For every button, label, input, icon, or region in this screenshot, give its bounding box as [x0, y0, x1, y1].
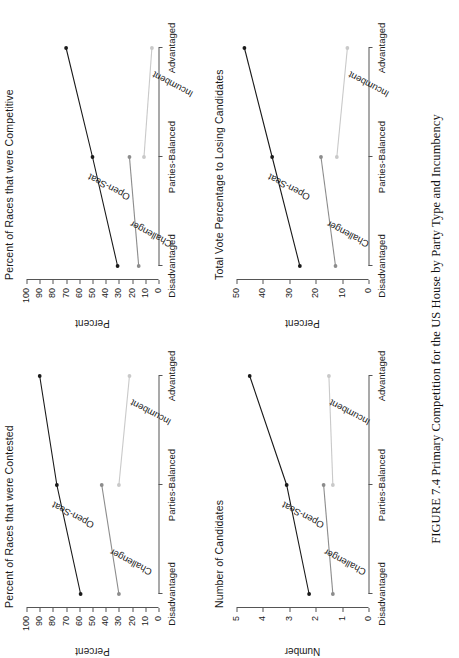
series-layer-number — [212, 336, 416, 652]
rotated-page-wrapper: Percent of Races that were Contested0102… — [0, 0, 459, 658]
series-line-incumbent — [143, 48, 151, 157]
panel-votepct: Total Vote Percentage to Losing Candidat… — [212, 8, 416, 324]
data-point-incumbent — [330, 483, 334, 487]
figure-page: Percent of Races that were Contested0102… — [0, 0, 459, 658]
data-point-challenger — [127, 155, 131, 159]
series-line-challenger — [323, 485, 332, 594]
data-point-incumbent — [334, 155, 338, 159]
data-point-challenger — [333, 264, 337, 268]
data-point-open-seat — [64, 46, 68, 50]
data-point-incumbent — [150, 46, 154, 50]
panel-number: Number of Candidates012345NumberDisadvan… — [212, 336, 416, 652]
data-point-challenger — [330, 592, 334, 596]
series-layer-contested — [2, 336, 206, 652]
series-line-incumbent — [328, 376, 332, 485]
figure-caption: FIGURE 7.4 Primary Competition for the U… — [428, 0, 443, 658]
series-layer-votepct — [212, 8, 416, 324]
data-point-open-seat — [247, 374, 251, 378]
series-line-open-seat — [249, 376, 308, 594]
panel-grid: Percent of Races that were Contested0102… — [0, 0, 420, 658]
data-point-incumbent — [127, 374, 131, 378]
data-point-open-seat — [54, 483, 58, 487]
data-point-challenger — [321, 483, 325, 487]
series-line-incumbent — [336, 48, 347, 157]
series-line-incumbent — [118, 376, 129, 485]
series-layer-competitive — [2, 8, 206, 324]
data-point-open-seat — [242, 46, 246, 50]
data-point-open-seat — [297, 264, 301, 268]
series-line-challenger — [129, 157, 138, 266]
data-point-incumbent — [327, 374, 331, 378]
series-line-open-seat — [39, 376, 80, 594]
panel-competitive: Percent of Races that were Competitive01… — [2, 8, 206, 324]
data-point-open-seat — [307, 592, 311, 596]
data-point-open-seat — [115, 264, 119, 268]
data-point-incumbent — [142, 155, 146, 159]
data-point-open-seat — [284, 483, 288, 487]
data-point-open-seat — [90, 155, 94, 159]
data-point-open-seat — [270, 155, 274, 159]
data-point-challenger — [136, 264, 140, 268]
data-point-challenger — [117, 592, 121, 596]
series-line-challenger — [320, 157, 335, 266]
series-line-challenger — [101, 485, 118, 594]
data-point-open-seat — [37, 374, 41, 378]
data-point-incumbent — [345, 46, 349, 50]
panel-contested: Percent of Races that were Contested0102… — [2, 336, 206, 652]
data-point-challenger — [99, 483, 103, 487]
data-point-open-seat — [78, 592, 82, 596]
data-point-challenger — [319, 155, 323, 159]
data-point-incumbent — [117, 483, 121, 487]
